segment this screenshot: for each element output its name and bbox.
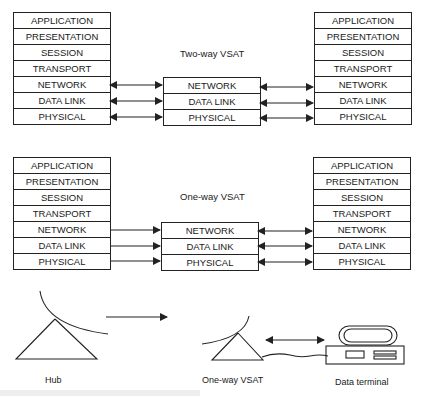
hub-antenna-icon [16, 291, 108, 359]
hub-label: Hub [45, 375, 62, 385]
figure-caption-fragment [0, 390, 200, 396]
vsat-label: One-way VSAT [202, 375, 263, 385]
vsat-terminal-cable [262, 354, 328, 357]
data-terminal-icon [326, 326, 404, 364]
data-terminal-label: Data terminal [335, 377, 389, 387]
diagram-graphics [0, 0, 423, 398]
vsat-antenna-icon [202, 316, 263, 360]
